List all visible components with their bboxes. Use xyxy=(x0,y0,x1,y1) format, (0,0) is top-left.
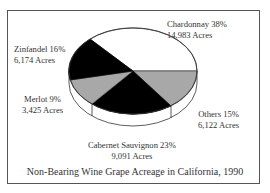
label-others-acres: 6,122 Acres xyxy=(198,120,239,131)
label-chardonnay: Chardonnay 38% 14,983 Acres xyxy=(167,19,227,40)
label-chardonnay-name: Chardonnay 38% xyxy=(167,19,227,30)
label-cabernet-name: Cabernet Sauvignon 23% xyxy=(88,140,176,151)
label-merlot: Merlot 9% 3,425 Acres xyxy=(22,94,63,115)
label-zinfandel-acres: 6,174 Acres xyxy=(14,55,65,66)
label-zinfandel: Zinfandel 16% 6,174 Acres xyxy=(14,44,65,65)
label-chardonnay-acres: 14,983 Acres xyxy=(167,30,227,41)
label-zinfandel-name: Zinfandel 16% xyxy=(14,44,65,55)
chart-title: Non-Bearing Wine Grape Acreage in Califo… xyxy=(0,166,270,177)
label-others: Others 15% 6,122 Acres xyxy=(198,109,239,130)
label-cabernet-acres: 9,091 Acres xyxy=(88,151,176,162)
label-merlot-name: Merlot 9% xyxy=(22,94,63,105)
label-cabernet-sauvignon: Cabernet Sauvignon 23% 9,091 Acres xyxy=(88,140,176,161)
label-others-name: Others 15% xyxy=(198,109,239,120)
label-merlot-acres: 3,425 Acres xyxy=(22,105,63,116)
